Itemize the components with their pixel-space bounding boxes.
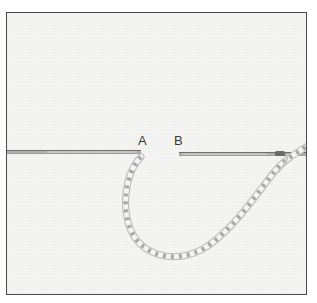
label-point-a: A — [138, 134, 147, 147]
label-point-b: B — [174, 134, 183, 147]
stitch-photo — [7, 13, 306, 294]
illustration-frame: A B — [6, 12, 307, 295]
